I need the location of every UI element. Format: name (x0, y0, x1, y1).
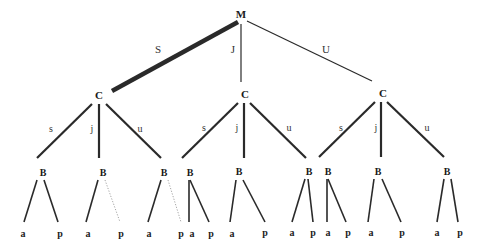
node-b: B (100, 167, 107, 178)
node-b: B (187, 167, 194, 178)
node-b: B (161, 167, 168, 178)
node-b: B (306, 166, 313, 177)
node-c: C (379, 87, 387, 99)
leaf-a: a (86, 228, 91, 239)
edge-b-leaf (243, 180, 265, 222)
node-b: B (444, 166, 451, 177)
leaf-a: a (369, 227, 374, 238)
root-node-m: M (236, 8, 247, 20)
leaf-p: p (118, 228, 124, 239)
edge-label: J (231, 43, 236, 55)
edge-b-leaf (308, 179, 313, 222)
edge-c-u (106, 104, 161, 158)
node-b: B (40, 167, 47, 178)
edge-label: u (138, 123, 143, 134)
edge-label: s (202, 122, 206, 133)
tree-edges (24, 21, 458, 222)
edge-b-leaf (230, 180, 236, 222)
leaf-p: p (178, 228, 184, 239)
edge-b-leaf (168, 180, 181, 222)
leaf-p: p (457, 227, 463, 238)
leaf-a: a (21, 228, 26, 239)
edge-label: s (49, 123, 53, 134)
leaf-a: a (190, 228, 195, 239)
leaf-a: a (147, 228, 152, 239)
edge-c-s (37, 104, 92, 158)
leaf-p: p (57, 228, 63, 239)
edge-root-s (112, 22, 238, 91)
leaf-a: a (230, 228, 235, 239)
edge-root-u (247, 21, 372, 81)
leaf-a: a (326, 227, 331, 238)
edge-label: j (235, 122, 239, 133)
edge-label: j (90, 123, 94, 134)
edge-label: S (155, 43, 161, 55)
edge-c-u (387, 102, 444, 157)
edge-b-leaf (328, 179, 346, 222)
edge-b-leaf (190, 180, 209, 222)
edge-c-u (250, 103, 306, 158)
leaf-p: p (399, 227, 405, 238)
edge-label: u (425, 122, 430, 133)
edge-label: U (322, 43, 330, 55)
node-b: B (325, 166, 332, 177)
node-c: C (95, 89, 103, 101)
leaf-p: p (310, 227, 316, 238)
node-c: C (241, 88, 249, 100)
edge-b-leaf (437, 179, 444, 222)
edge-b-leaf (24, 180, 37, 222)
edge-b-leaf (105, 180, 120, 222)
node-b: B (236, 166, 243, 177)
leaf-a: a (290, 227, 295, 238)
edge-label: u (287, 122, 292, 133)
node-b: B (375, 166, 382, 177)
tree-labels: SJUsjusjusjuMCCCBBBBBBBBBapapapapapapapa… (21, 8, 464, 239)
edge-b-leaf (44, 180, 58, 222)
edge-label: j (374, 122, 378, 133)
edge-b-leaf (368, 179, 374, 222)
leaf-p: p (262, 227, 268, 238)
edge-label: s (339, 122, 343, 133)
edge-b-leaf (382, 179, 401, 222)
tree-canvas: SJUsjusjusjuMCCCBBBBBBBBBapapapapapapapa… (0, 0, 481, 250)
edge-b-leaf (148, 180, 161, 222)
leaf-p: p (345, 227, 351, 238)
leaf-a: a (435, 227, 440, 238)
edge-b-leaf (451, 179, 458, 222)
edge-b-leaf (292, 179, 305, 222)
edge-c-s (182, 103, 238, 158)
leaf-p: p (208, 228, 214, 239)
edge-b-leaf (86, 180, 98, 222)
game-tree-diagram: SJUsjusjusjuMCCCBBBBBBBBBapapapapapapapa… (0, 0, 481, 250)
edge-c-s (319, 102, 375, 157)
